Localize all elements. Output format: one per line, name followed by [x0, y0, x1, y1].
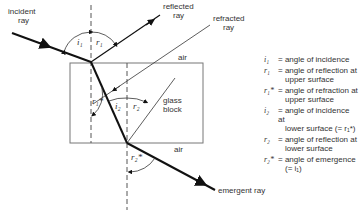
- legend-desc-2: (= i₁): [278, 164, 363, 173]
- legend-symbol: i₂: [264, 106, 278, 124]
- legend-desc: = angle of incidence: [278, 55, 358, 64]
- refracted-label-line1: refracted: [213, 14, 245, 23]
- legend-symbol: r₁*: [264, 86, 278, 95]
- reflected-label-line2: ray: [163, 11, 194, 20]
- arc-r1: [91, 32, 116, 45]
- legend-symbol: i₁: [264, 55, 278, 64]
- reflected-label-line1: reflected: [163, 2, 194, 11]
- angle-i2-label: i₂: [115, 102, 121, 111]
- incident-label-line2: ray: [8, 16, 36, 25]
- legend-row: i₁= angle of incidence: [264, 55, 363, 64]
- legend-desc: = angle of incidence at: [278, 106, 358, 124]
- legend-desc-2: lower surface: [278, 144, 363, 153]
- legend-symbol: r₂*: [264, 155, 278, 164]
- angle-r1-label: r₁: [96, 38, 103, 47]
- legend-row: r₁*= angle of refraction at: [264, 86, 363, 95]
- glass-block-label: glass block: [163, 96, 182, 114]
- air-top-label: air: [178, 53, 187, 62]
- legend-row: r₂*= angle of emergence: [264, 155, 363, 164]
- legend-desc: = angle of reflection at: [278, 135, 358, 144]
- reflected-ray-label: reflected ray: [163, 2, 194, 20]
- glass-label-line2: block: [163, 105, 182, 114]
- legend-row: i₂= angle of incidence at: [264, 106, 363, 124]
- glass-label-line1: glass: [163, 96, 182, 105]
- refracted-pointer: [93, 25, 210, 104]
- legend-symbol: r₂: [264, 135, 278, 144]
- legend-desc-2: upper surface: [278, 75, 363, 84]
- angle-r1star-label: r₁*: [92, 97, 103, 106]
- incident-label-line1: incident: [8, 7, 36, 16]
- incident-ray-label: incident ray: [8, 7, 36, 25]
- refracted-ray-label: refracted ray: [213, 14, 245, 32]
- air-bottom-label: air: [174, 145, 183, 154]
- legend: i₁= angle of incidence r₁= angle of refl…: [264, 55, 363, 173]
- legend-desc: = angle of refraction at: [278, 86, 358, 95]
- legend-desc: = angle of emergence: [278, 155, 358, 164]
- angle-r2-label: r₂: [133, 102, 140, 111]
- angle-r2star-label: r₂*: [131, 153, 142, 162]
- legend-symbol: r₁: [264, 66, 278, 75]
- legend-row: r₂= angle of reflection at: [264, 135, 363, 144]
- legend-row: r₁= angle of reflection at: [264, 66, 363, 75]
- legend-desc-2: lower surface (= r₁*): [278, 124, 363, 133]
- legend-desc: = angle of reflection at: [278, 66, 358, 75]
- emergent-ray-label: emergent ray: [218, 186, 265, 195]
- legend-desc-2: upper surface: [278, 95, 363, 104]
- angle-i1-label: i₁: [77, 38, 83, 47]
- refracted-label-line2: ray: [213, 23, 245, 32]
